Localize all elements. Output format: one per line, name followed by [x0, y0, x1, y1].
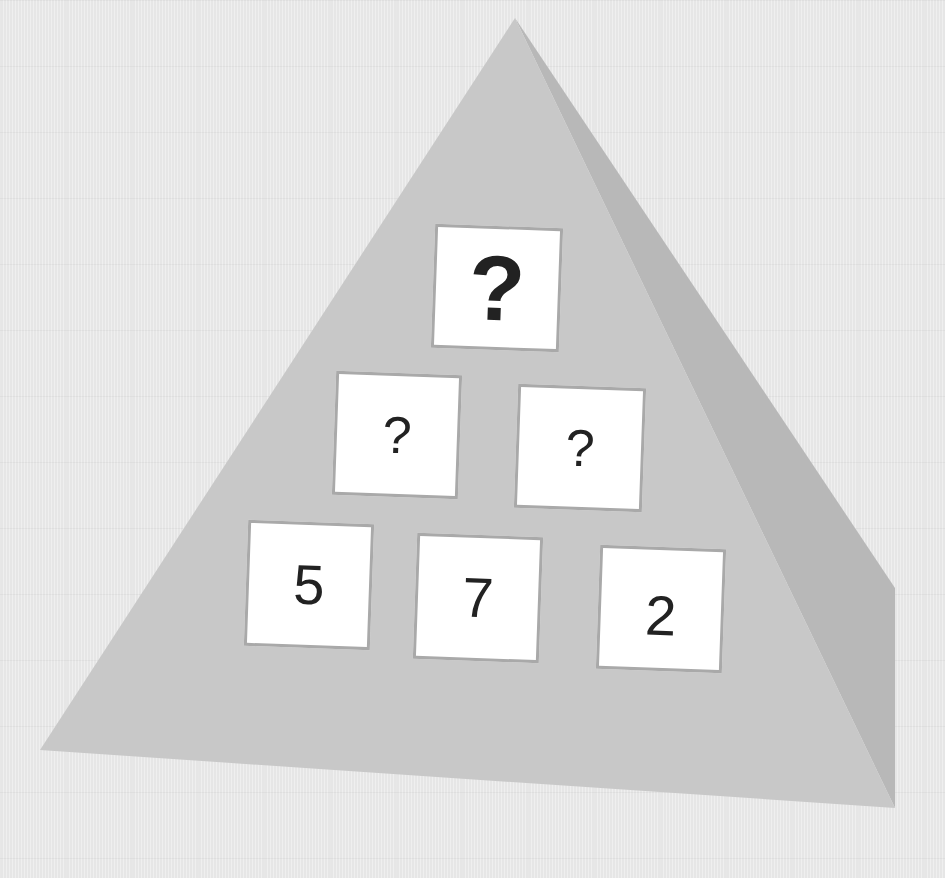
pyramid-cell-middle-left[interactable]: ?: [332, 371, 462, 499]
pyramid-cell-bottom-right[interactable]: 2: [596, 545, 726, 673]
cell-value: ?: [382, 409, 413, 462]
cell-value: 2: [644, 573, 678, 644]
pyramid-cell-bottom-middle[interactable]: 7: [413, 533, 543, 663]
cell-value: 7: [461, 569, 494, 626]
cell-value: ?: [467, 241, 526, 335]
cell-value: 5: [292, 556, 325, 613]
pyramid-cell-middle-right[interactable]: ?: [514, 384, 646, 512]
pyramid-cell-top[interactable]: ?: [431, 224, 563, 352]
pyramid-cell-bottom-left[interactable]: 5: [244, 520, 374, 650]
pyramid-shape: [0, 0, 945, 878]
cell-value: ?: [565, 422, 596, 475]
pyramid-scene: ? ? ? 5 7 2: [0, 0, 945, 878]
